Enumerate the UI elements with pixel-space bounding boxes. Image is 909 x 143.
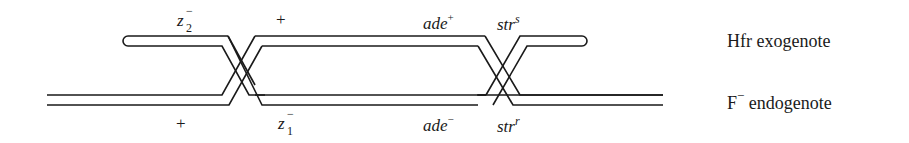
ade-plus-sup: + [448, 11, 454, 23]
crossover-2-a [485, 36, 663, 95]
label-ade-plus: ade+ [423, 13, 454, 32]
label-str-r: strr [497, 115, 520, 135]
label-ade-minus: ade− [423, 115, 454, 134]
str-s-base: str [497, 15, 515, 34]
label-f-minus-endogenote: F− endogenote [727, 91, 832, 112]
crossover-diagram [0, 0, 909, 143]
crossover-1-a [47, 36, 255, 95]
hfr-strand-left [123, 36, 663, 95]
z2-base: z [177, 11, 184, 30]
z1-base: z [278, 114, 285, 133]
crossover-2-b [478, 46, 663, 105]
ade-minus-sup: − [448, 113, 454, 125]
label-z1-minus: z−1 [278, 115, 285, 132]
label-bottom-plus: + [176, 115, 186, 132]
str-r-sup: r [515, 114, 520, 128]
z1-sup: − [287, 108, 294, 120]
label-top-plus: + [276, 11, 286, 28]
str-s-sup: s [515, 12, 520, 26]
ade-minus-base: ade [423, 116, 448, 135]
str-r-base: str [497, 117, 515, 136]
label-str-s: strs [497, 13, 520, 33]
f-suffix: endogenote [744, 93, 831, 113]
label-z2-minus: z−2 [177, 12, 184, 29]
z2-sup: − [186, 5, 193, 17]
label-hfr-exogenote: Hfr exogenote [727, 32, 830, 50]
ade-plus-base: ade [423, 14, 448, 33]
f-prefix: F [727, 93, 737, 113]
f-sup: − [737, 88, 744, 103]
z1-sub: 1 [287, 125, 293, 137]
crossover-1-b [47, 46, 262, 105]
z2-sub: 2 [186, 22, 192, 34]
